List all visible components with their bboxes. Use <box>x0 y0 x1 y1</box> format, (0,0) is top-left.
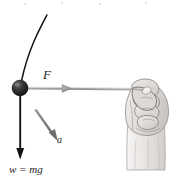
figure-canvas: F a w = mg <box>0 0 183 180</box>
weight-vector <box>16 90 24 160</box>
force-label: F <box>42 67 52 82</box>
acceleration-label: a <box>57 134 62 145</box>
scan-artifacts <box>24 2 147 5</box>
force-vector <box>24 84 72 92</box>
physics-figure: F a w = mg <box>0 0 183 180</box>
hand-illustration <box>125 79 168 170</box>
acceleration-vector <box>36 110 58 142</box>
weight-label: w = mg <box>9 163 43 175</box>
ball <box>12 80 29 97</box>
